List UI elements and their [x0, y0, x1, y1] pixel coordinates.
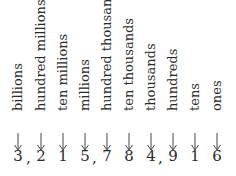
place-label: tens — [188, 83, 202, 111]
place-digit: 1 — [52, 147, 74, 165]
place-label: hundred thousands — [100, 0, 114, 111]
place-column-ones: ones 6 — [206, 0, 228, 176]
place-label: billions — [11, 63, 25, 111]
place-digit: 7 — [96, 147, 118, 165]
place-column-hundreds: hundreds 9 — [162, 0, 184, 176]
place-label: thousands — [144, 43, 158, 111]
place-digit: 9 — [162, 147, 184, 165]
place-column-hundred-millions: hundred millions 2 — [30, 0, 52, 176]
place-label: ones — [210, 80, 224, 111]
place-digit: 6 — [206, 147, 228, 165]
place-column-ten-thousands: ten thousands 8 — [118, 0, 140, 176]
place-label: ten thousands — [122, 18, 136, 111]
place-digit: 2 — [30, 147, 52, 165]
place-digit: 8 — [118, 147, 140, 165]
place-column-hundred-thousands: hundred thousands 7 — [96, 0, 118, 176]
place-label: hundred millions — [34, 0, 48, 111]
place-column-tens: tens 1 — [184, 0, 206, 176]
place-label: millions — [78, 59, 92, 111]
place-label: ten millions — [56, 34, 70, 111]
place-column-ten-millions: ten millions 1 — [52, 0, 74, 176]
place-digit: 1 — [184, 147, 206, 165]
place-label: hundreds — [166, 49, 180, 111]
